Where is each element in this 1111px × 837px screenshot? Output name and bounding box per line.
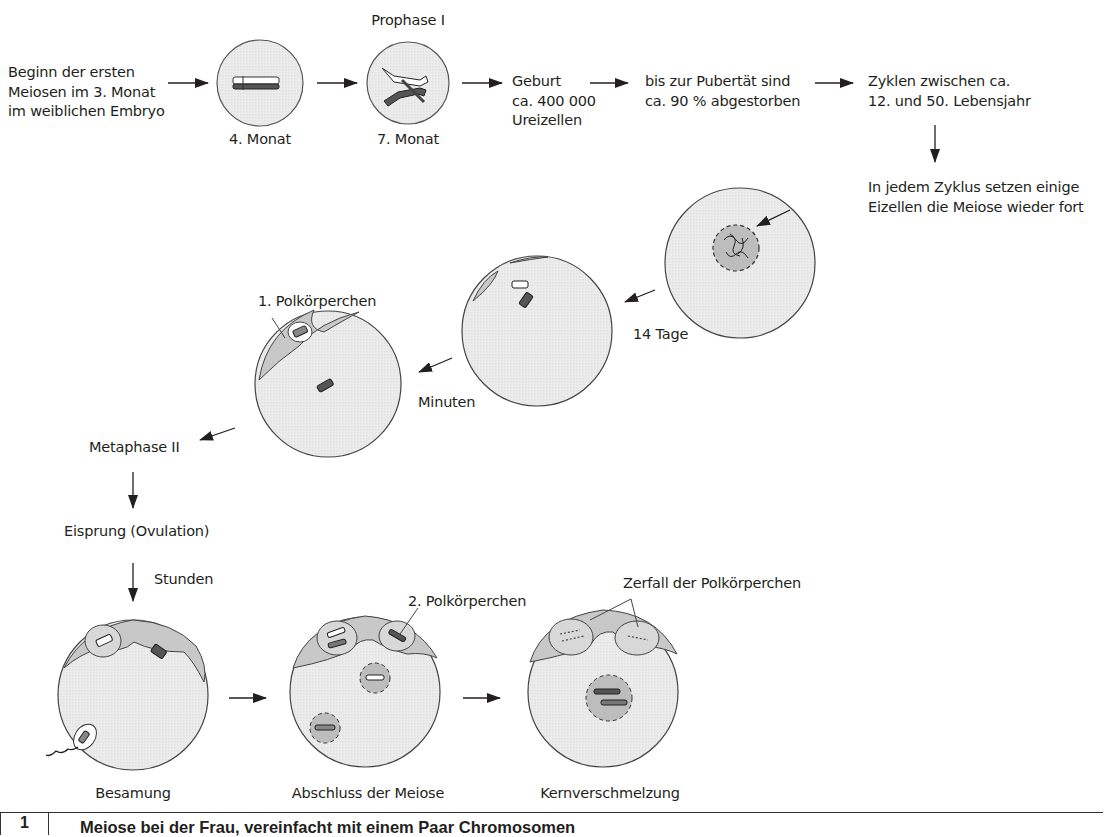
- label-minutes: Minuten: [418, 393, 475, 413]
- cell-month-4: [217, 40, 303, 126]
- birth-text: Geburt ca. 400 000 Ureizellen: [512, 72, 596, 131]
- arrow-minutes: [419, 358, 452, 372]
- label-ovulation: Eisprung (Ovulation): [64, 522, 209, 542]
- cell-fertilization: [46, 620, 208, 770]
- label-meiosis-completion: Abschluss der Meiose: [288, 784, 448, 804]
- cell-metaphase-1: [462, 256, 612, 406]
- label-14-days: 14 Tage: [633, 325, 688, 345]
- cycles-text: Zyklen zwischen ca. 12. und 50. Lebensja…: [868, 72, 1031, 111]
- label-polar-body-2: 2. Polkörperchen: [408, 592, 526, 612]
- label-nuclear-fusion: Kernverschmelzung: [535, 784, 685, 804]
- label-hours: Stunden: [154, 570, 213, 590]
- label-month-7: 7. Monat: [363, 130, 453, 150]
- chromosome-pair-icon: [233, 76, 279, 90]
- label-polar-decay: Zerfall der Polkörperchen: [623, 574, 801, 594]
- label-fertilization: Besamung: [58, 784, 208, 804]
- cell-month-7: [367, 42, 449, 124]
- puberty-text: bis zur Pubertät sind ca. 90 % abgestorb…: [645, 72, 800, 111]
- arrow-14-days: [625, 290, 655, 302]
- cell-resuming-meiosis: [665, 188, 815, 338]
- label-prophase-1: Prophase I: [358, 11, 458, 31]
- figure-number: 1: [0, 812, 49, 835]
- label-polar-body-1: 1. Polkörperchen: [258, 292, 376, 312]
- resume-meiosis-text: In jedem Zyklus setzen einige Eizellen d…: [868, 178, 1084, 217]
- cell-meiosis-completion: [290, 608, 440, 767]
- cell-polar-body-1: [255, 310, 401, 457]
- label-month-4: 4. Monat: [215, 130, 305, 150]
- label-metaphase-2: Metaphase II: [89, 438, 180, 458]
- cell-nuclear-fusion: [528, 599, 678, 767]
- start-text: Beginn der ersten Meiosen im 3. Monat im…: [8, 63, 165, 122]
- arrow-to-metaphase-2: [200, 428, 235, 440]
- figure-caption: Meiose bei der Frau, vereinfacht mit ein…: [80, 818, 575, 837]
